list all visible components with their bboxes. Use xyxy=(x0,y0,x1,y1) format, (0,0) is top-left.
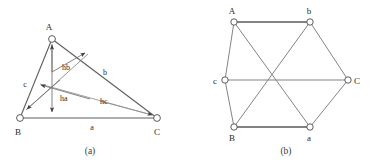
altitude-hb-arrow-down xyxy=(27,80,60,109)
vertex-label-A: A xyxy=(46,22,53,32)
hex-vertex-node-A xyxy=(231,19,237,25)
hex-vertex-label-A: A xyxy=(229,6,236,16)
hex-vertex-label-a: a xyxy=(307,133,311,143)
hex-edge-B-c xyxy=(225,80,234,127)
hex-vertex-node-B xyxy=(231,124,237,130)
hex-edge-C-a xyxy=(310,80,348,127)
vertex-node-B xyxy=(17,115,24,122)
side-label-b: b xyxy=(103,68,107,77)
panel-a-caption: (a) xyxy=(85,146,96,157)
altitude-label-hc: hc xyxy=(100,97,108,106)
hex-edge-c-A xyxy=(225,22,234,80)
vertex-label-C: C xyxy=(154,127,160,137)
panel-b-caption: (b) xyxy=(280,146,291,157)
hex-vertex-label-b: b xyxy=(307,6,312,16)
triangle-side-c xyxy=(20,39,52,118)
hex-vertex-node-c xyxy=(222,77,228,83)
hexagon-svg: A b C a B c (b) xyxy=(189,0,378,164)
hex-vertex-node-C xyxy=(345,77,351,83)
side-label-a: a xyxy=(90,123,94,132)
hex-vertex-label-B: B xyxy=(229,133,235,143)
altitude-label-ha: ha xyxy=(60,94,68,103)
figure-container: A B C c b a ha hb hc (a) xyxy=(0,0,378,164)
vertex-node-C xyxy=(154,115,161,122)
hex-edge-b-C xyxy=(310,22,348,80)
triangle-side-b xyxy=(52,39,157,118)
panel-a-triangle-diagram: A B C c b a ha hb hc (a) xyxy=(0,0,189,164)
vertex-node-A xyxy=(49,36,56,43)
altitude-label-hb: hb xyxy=(62,63,70,72)
vertex-label-B: B xyxy=(15,127,21,137)
panel-b-hexagon-diagram: A b C a B c (b) xyxy=(189,0,378,164)
hex-vertex-label-c: c xyxy=(213,76,217,86)
hex-vertex-node-b xyxy=(307,19,313,25)
hex-vertex-node-a xyxy=(307,124,313,130)
side-label-c: c xyxy=(23,80,27,89)
triangle-svg: A B C c b a ha hb hc (a) xyxy=(0,0,189,164)
hex-vertex-label-C: C xyxy=(354,76,360,86)
